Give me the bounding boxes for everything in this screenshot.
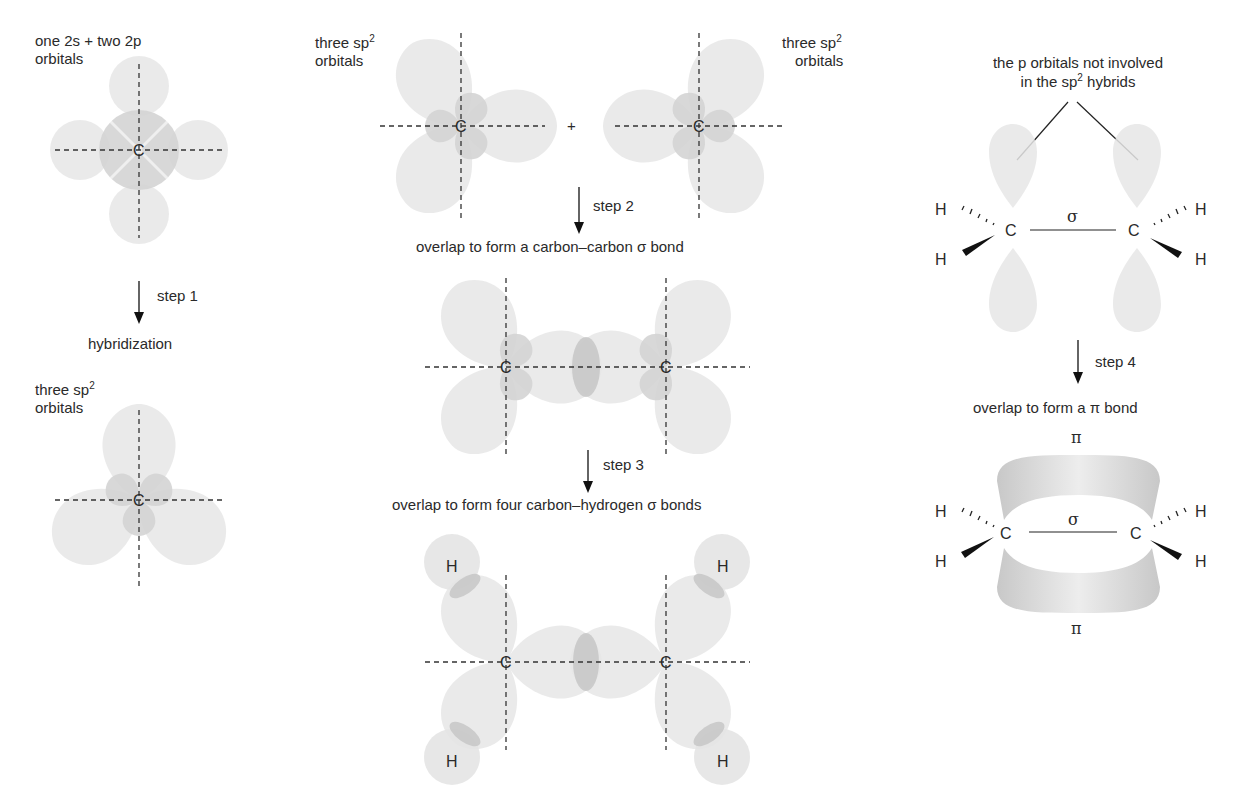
carbon-atom: C [660,654,672,671]
label-orbitals-2: orbitals [35,399,83,416]
wedge-bond-left [961,537,994,558]
carbon-atom: C [693,118,705,135]
hashed-bond-left [962,508,994,527]
hydrogen-atom: H [717,558,729,575]
p-orbital-lobe [1113,248,1161,332]
hydrogen-atom: H [1195,503,1207,520]
carbon-atom: C [455,118,467,135]
carbon-atom: C [1000,525,1012,542]
p-orbital-lobe [1113,124,1161,208]
carbon-atom: C [133,492,145,509]
p-orbitals-label-line1: the p orbitals not involved [993,54,1163,71]
pi-label-bottom: π [1071,619,1082,638]
label-orbitals-right: orbitals [795,52,843,69]
hybridization-label: hybridization [88,335,172,352]
ethene-bonding-diagram: one 2s + two 2p orbitals C step 1 hybrid… [0,0,1247,800]
label-three-sp2-left: three sp2 [315,33,375,51]
label-orbitals: orbitals [35,50,83,67]
step2-caption: overlap to form a carbon–carbon σ bond [416,238,684,255]
wedge-bond-left [962,235,995,256]
ch-sigma-overlap [424,534,750,785]
carbon-atom: C [1130,525,1142,542]
label-2s-2p: one 2s + two 2p [35,32,141,49]
step3-caption: overlap to form four carbon–hydrogen σ b… [392,496,701,513]
p-orbital-lobe [989,124,1037,208]
arrow-head-icon [583,481,593,493]
hydrogen-atom: H [1195,201,1207,218]
carbon-atom: C [133,142,145,159]
carbon-atom: C [500,654,512,671]
step2-label: step 2 [593,197,634,214]
step4-label: step 4 [1095,353,1136,370]
arrow-head-icon [1073,372,1083,384]
carbon-atom: C [500,359,512,376]
sigma-label: σ [1068,510,1079,529]
wedge-bond-right [1150,540,1182,560]
pi-label-top: π [1071,428,1082,447]
p-orbitals-label-line2: in the sp2 hybrids [1021,72,1136,90]
p-orbital-lobe [989,248,1037,332]
pi-cloud-bottom [997,548,1160,613]
hashed-bond-right [1154,508,1186,527]
carbon-atom: C [660,359,672,376]
wedge-bond-right [1150,238,1182,258]
hydrogen-atom: H [1195,251,1207,268]
hydrogen-atom: H [935,251,947,268]
arrow-head-icon [574,222,584,234]
carbon-atom: C [1005,222,1017,239]
hydrogen-atom: H [935,503,947,520]
step4-caption: overlap to form a π bond [973,399,1138,416]
hydrogen-atom: H [717,753,729,770]
hydrogen-atom: H [446,753,458,770]
hashed-bond-right [1154,206,1186,225]
left-panel: one 2s + two 2p orbitals C step 1 hybrid… [35,32,240,590]
hydrogen-atom: H [446,558,458,575]
plus-sign: + [567,117,576,134]
hydrogen-atom: H [935,201,947,218]
step1-label: step 1 [157,287,198,304]
hashed-bond-left [962,206,994,225]
label-three-sp2: three sp2 [35,380,95,398]
label-three-sp2-right: three sp2 [782,33,842,51]
label-orbitals-left: orbitals [315,52,363,69]
carbon-atom: C [1128,222,1140,239]
hydrogen-atom: H [935,553,947,570]
middle-panel: three sp2 orbitals three sp2 orbitals C … [315,25,843,785]
step3-label: step 3 [603,456,644,473]
right-panel: the p orbitals not involved in the sp2 h… [935,54,1207,638]
hydrogen-atom: H [1195,553,1207,570]
sigma-label: σ [1067,207,1078,226]
arrow-head-icon [134,312,144,324]
